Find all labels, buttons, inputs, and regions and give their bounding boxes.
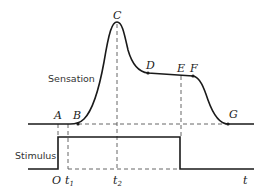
point-label-A: A: [53, 109, 62, 122]
stimulus-label: Stimulus: [15, 150, 56, 161]
origin-label: O: [52, 174, 61, 187]
point-label-F: F: [189, 62, 198, 75]
t2-label: t2: [113, 174, 122, 188]
point-label-B: B: [72, 109, 81, 122]
t1-label: t1: [65, 174, 74, 188]
point-label-C: C: [113, 9, 122, 22]
sensation-label: Sensation: [48, 73, 95, 84]
point-label-G: G: [229, 108, 238, 121]
sensation-stimulus-diagram: A B C D E F G Sensation Stimulus O t1 t2…: [0, 0, 265, 193]
point-G-dot: [226, 122, 229, 125]
point-B-dot: [76, 122, 79, 125]
point-label-E: E: [176, 62, 185, 75]
point-label-D: D: [145, 59, 155, 72]
time-axis-label: t: [243, 174, 248, 187]
stimulus-step: [28, 137, 254, 169]
